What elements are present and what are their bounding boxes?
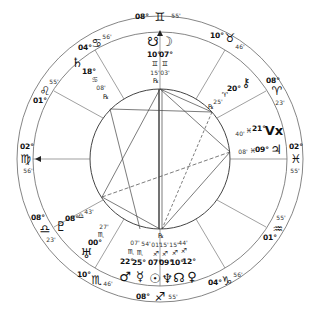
saturn-retro: ℞: [103, 94, 109, 101]
asc-minute: 56': [23, 168, 32, 174]
asc-arrow: [35, 156, 41, 162]
vertex-sign: ♓: [246, 128, 252, 135]
north-node-sign: ♐: [172, 250, 178, 257]
libra-icon: ♎: [40, 223, 51, 235]
neptune-sign: ♐: [162, 251, 168, 258]
cancer-icon: ♋: [92, 37, 103, 49]
chiron-icon: ⚷: [241, 76, 251, 89]
moon-icon: ☽: [161, 35, 173, 48]
moon-sign: ♊: [162, 61, 168, 68]
sun-sign: ♐: [153, 251, 159, 258]
pluto-sign: ♎: [78, 213, 84, 220]
jupiter-sign: ♓: [250, 148, 256, 155]
aries-icon: ♈: [272, 85, 283, 97]
neptune-minute: 15': [159, 242, 168, 248]
neptune-retro: ℞: [158, 233, 164, 240]
asc-degree: 02°: [20, 143, 34, 151]
moon-degree: 07°: [159, 51, 173, 59]
chiron-sign: ♈: [222, 92, 228, 99]
h2-degree: 08°: [31, 214, 45, 222]
h8-minute: 55': [49, 79, 58, 85]
vertex-degree: 21°: [252, 125, 266, 133]
virgo-icon: ♍: [21, 153, 32, 165]
venus-sign: ♐: [181, 248, 187, 255]
dsc-degree: 02°: [289, 143, 303, 151]
dsc-minute: 55': [290, 168, 299, 174]
h11-degree: 10°: [210, 32, 224, 40]
ic-degree: 08°: [136, 293, 150, 301]
jupiter-degree: 09°: [255, 146, 269, 154]
scorpio-icon: ♏: [92, 274, 103, 286]
h8-degree: 01°: [33, 97, 47, 105]
h9-minute: 56': [102, 34, 111, 40]
chiron-minute: 25': [213, 99, 222, 105]
mercury-minute: 54': [141, 241, 150, 247]
south-node-sign: ♊: [152, 61, 158, 68]
pisces-icon: ♓: [291, 153, 302, 165]
h5-minute: 55': [276, 215, 285, 221]
saturn-sign: ♋: [92, 77, 98, 84]
h6-degree: 04°: [208, 279, 222, 287]
moon-minute: 03': [160, 70, 169, 76]
mars-icon: ♂: [119, 270, 131, 283]
jupiter-minute: 08': [238, 149, 247, 155]
ic-minute: 55': [168, 294, 177, 300]
chiron-retro: ℞: [208, 104, 214, 111]
venus-icon: ♀: [187, 270, 197, 283]
south-node-minute: 15': [150, 70, 159, 76]
mc-minute: 55': [171, 13, 180, 19]
h3-minute: 46': [103, 281, 112, 287]
vertex-icon: Vx: [265, 124, 283, 137]
south-node-icon: ☋: [147, 35, 159, 48]
north-node-minute: 15': [169, 242, 178, 248]
mc-degree: 08°: [135, 13, 149, 21]
vertex-minute: 40': [235, 131, 244, 137]
venus-minute: 44': [178, 240, 187, 246]
saturn-minute: 08': [96, 85, 105, 91]
pluto-minute: 43': [84, 209, 93, 215]
mercury-sign: ♏: [137, 250, 143, 257]
capricorn-icon: ♑: [222, 275, 233, 287]
h12-minute: 23': [275, 100, 284, 106]
taurus-icon: ♉: [225, 32, 236, 44]
venus-degree: 12°: [182, 258, 196, 266]
chart-wheel: [0, 0, 318, 317]
north-node-icon: ☊: [173, 271, 185, 284]
jupiter-icon: ♃: [270, 143, 282, 156]
sun-icon: ☉: [149, 272, 161, 285]
mars-sign: ♏: [128, 249, 134, 256]
h3-degree: 10°: [77, 271, 91, 279]
sagittarius-icon: ♐: [155, 291, 166, 303]
h2-minute: 23': [46, 237, 55, 243]
uranus-minute: 27': [99, 224, 108, 230]
h9-degree: 04°: [78, 44, 92, 52]
h5-degree: 01°: [263, 234, 277, 242]
mars-minute: 07': [130, 240, 139, 246]
mercury-icon: ☿: [136, 270, 144, 283]
uranus-icon: ♅: [80, 247, 92, 260]
h11-minute: 46': [235, 44, 244, 50]
south-node-retro: ℞: [153, 78, 159, 85]
gemini-icon: ♊: [155, 11, 166, 23]
neptune-icon: ♆: [161, 272, 173, 285]
leo-icon: ♌: [40, 85, 51, 97]
h6-minute: 56': [233, 272, 242, 278]
chiron-degree: 20°: [227, 85, 241, 93]
mercury-degree: 25°: [132, 259, 146, 267]
